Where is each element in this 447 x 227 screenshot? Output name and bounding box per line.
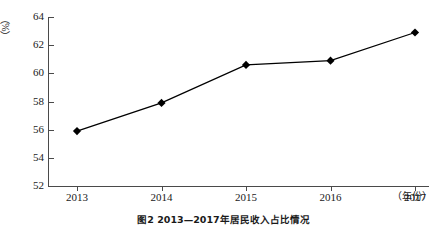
x-axis-tick-labels: 20132014201520162017 xyxy=(48,191,429,207)
y-tick-label: 52 xyxy=(18,180,44,191)
y-axis-tick-labels: 52545658606264 xyxy=(14,0,44,227)
figure-chart: （%） 52545658606264 20132014201520162017 … xyxy=(0,0,447,227)
x-tick-label: 2013 xyxy=(47,191,107,203)
y-tick-mark xyxy=(49,158,54,159)
y-tick-mark xyxy=(49,102,54,103)
series-line xyxy=(77,32,415,131)
data-point-marker xyxy=(326,57,334,65)
y-tick-label: 64 xyxy=(18,11,44,22)
data-point-marker xyxy=(242,61,250,69)
x-tick-label: 2016 xyxy=(301,191,361,203)
x-axis-unit-label: （年份） xyxy=(392,191,432,203)
x-tick-label: 2015 xyxy=(216,191,276,203)
data-point-marker xyxy=(411,28,419,36)
y-tick-mark xyxy=(49,45,54,46)
data-point-marker xyxy=(73,127,81,135)
y-tick-label: 58 xyxy=(18,96,44,107)
plot-area xyxy=(48,17,429,186)
y-tick-label: 62 xyxy=(18,39,44,50)
y-tick-label: 60 xyxy=(18,67,44,78)
line-series xyxy=(48,17,429,187)
y-tick-mark xyxy=(49,17,54,18)
figure-caption: 图2 2013—2017年居民收入占比情况 xyxy=(0,214,447,226)
x-tick-label: 2014 xyxy=(132,191,192,203)
y-tick-label: 56 xyxy=(18,124,44,135)
y-tick-mark xyxy=(49,73,54,74)
y-tick-mark xyxy=(49,130,54,131)
y-tick-label: 54 xyxy=(18,152,44,163)
data-point-marker xyxy=(157,99,165,107)
